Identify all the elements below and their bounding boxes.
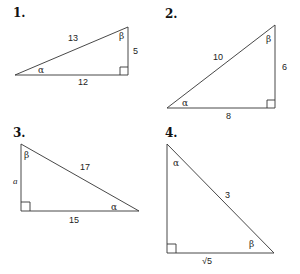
right-angle-marker-2 xyxy=(267,100,275,108)
angle-beta-4: β xyxy=(249,240,254,249)
right-angle-marker-3 xyxy=(21,202,30,211)
right-angle-marker-4 xyxy=(167,244,176,253)
side-horizontal-3: 15 xyxy=(69,216,79,225)
trig-diagram: 1. 13 5 12 α β 2. 10 6 8 α β 3. 17 a 15 … xyxy=(0,0,300,274)
triangle-2 xyxy=(167,25,275,108)
angle-beta-1: β xyxy=(119,32,124,41)
side-adjacent-2: 8 xyxy=(226,112,231,121)
angle-alpha-3: α xyxy=(111,203,117,212)
problem-number-1: 1. xyxy=(13,6,26,20)
side-horizontal-4: √5 xyxy=(202,257,212,266)
problem-number-3: 3. xyxy=(13,126,26,140)
right-angle-marker-1 xyxy=(120,67,128,75)
problem-number-4: 4. xyxy=(165,126,178,140)
triangle-3 xyxy=(21,144,139,211)
side-adjacent-1: 12 xyxy=(78,78,88,87)
angle-beta-2: β xyxy=(266,35,271,44)
angle-alpha-1: α xyxy=(38,66,44,75)
side-vertical-3: a xyxy=(13,177,18,186)
side-hypotenuse-4: 3 xyxy=(225,191,230,200)
triangles-canvas xyxy=(0,0,300,274)
side-opposite-1: 5 xyxy=(133,47,138,56)
side-hypotenuse-2: 10 xyxy=(213,53,223,62)
angle-alpha-4: α xyxy=(173,159,179,168)
side-hypotenuse-3: 17 xyxy=(80,163,90,172)
side-hypotenuse-1: 13 xyxy=(68,34,78,43)
angle-alpha-2: α xyxy=(182,99,188,108)
angle-beta-3: β xyxy=(24,151,29,160)
problem-number-2: 2. xyxy=(165,7,178,21)
triangle-4 xyxy=(167,144,274,253)
side-opposite-2: 6 xyxy=(282,63,287,72)
